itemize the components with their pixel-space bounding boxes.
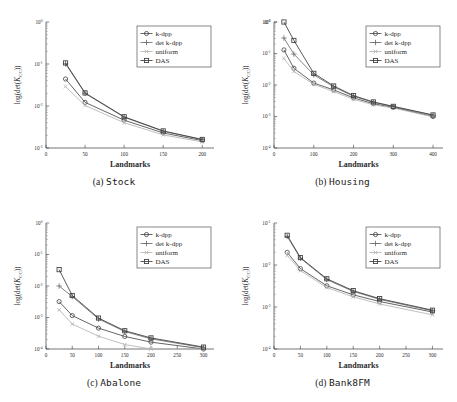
data-point bbox=[64, 85, 68, 89]
y-tick-label-10^-1: 10-1 bbox=[262, 50, 270, 56]
svg-text:log(det(KCC)): log(det(KCC)) bbox=[14, 65, 23, 105]
y-tick-label-10^-2: 10-2 bbox=[262, 82, 270, 88]
x-tick-label-0: 0 bbox=[273, 352, 276, 358]
y-tick-label-10^-2: 10-2 bbox=[34, 103, 42, 109]
legend-label: det k-dpp bbox=[385, 240, 412, 248]
plot-area-d: 05010015020025030010-110-210-310-4Landma… bbox=[228, 201, 457, 402]
x-tick-label-200: 200 bbox=[147, 352, 155, 358]
y-tick-label-10^-4: 10-4 bbox=[262, 346, 270, 352]
y-axis-title: log(det(KCC)) bbox=[242, 266, 251, 306]
caption-prefix: (d) bbox=[315, 378, 329, 388]
x-tick-label-50: 50 bbox=[298, 352, 304, 358]
y-tick-label-10^-3: 10-3 bbox=[262, 113, 270, 119]
x-tick-label-100: 100 bbox=[120, 151, 128, 157]
x-tick-label-100: 100 bbox=[95, 352, 103, 358]
legend-d: k-dppdet k-dppuniformDAS bbox=[366, 227, 440, 268]
legend-label: det k-dpp bbox=[156, 240, 183, 248]
data-point bbox=[70, 322, 74, 326]
x-tick-label-400: 400 bbox=[429, 151, 437, 157]
chart-c: 05010015020025030010010-110-210-310-4Lan… bbox=[0, 201, 228, 402]
caption-prefix: (c) bbox=[87, 378, 100, 388]
legend-label: DAS bbox=[385, 57, 399, 65]
subplot-c: 05010015020025030010010-110-210-310-4Lan… bbox=[0, 201, 228, 402]
y-tick-label-10^-1: 10-1 bbox=[34, 251, 42, 257]
series-markers-k-dpp bbox=[63, 77, 204, 143]
plot-area-a: 05010015020010010-110-210-3Landmarkslog(… bbox=[0, 0, 228, 201]
x-tick-label-250: 250 bbox=[402, 352, 410, 358]
legend-a: k-dppdet k-dppuniformDAS bbox=[137, 26, 211, 67]
series-line-DAS bbox=[66, 63, 203, 139]
caption-dataset-name: Abalone bbox=[100, 377, 141, 388]
y-tick-label-10^-4: 10-4 bbox=[34, 346, 42, 352]
legend-label: uniform bbox=[156, 249, 179, 257]
series-markers-det-k-dpp bbox=[56, 283, 206, 350]
x-tick-label-200: 200 bbox=[376, 352, 384, 358]
chart-b: 010020030040010-110010-110-210-310-4Land… bbox=[228, 0, 457, 201]
y-tick-label-10^-3: 10-3 bbox=[34, 314, 42, 320]
legend-label: k-dpp bbox=[385, 30, 402, 38]
x-tick-label-200: 200 bbox=[350, 151, 358, 157]
x-axis-title: Landmarks bbox=[110, 160, 150, 169]
x-tick-label-150: 150 bbox=[349, 352, 357, 358]
plot-area-c: 05010015020025030010010-110-210-310-4Lan… bbox=[0, 201, 228, 402]
chart-d: 05010015020025030010-110-210-310-4Landma… bbox=[228, 201, 457, 402]
x-tick-label-150: 150 bbox=[121, 352, 129, 358]
x-axis-title: Landmarks bbox=[338, 361, 378, 370]
legend-label: k-dpp bbox=[156, 231, 173, 239]
svg-text:log(det(KCC)): log(det(KCC)) bbox=[242, 266, 251, 306]
subplot-d: 05010015020025030010-110-210-310-4Landma… bbox=[228, 201, 457, 402]
chart-a: 05010015020010010-110-210-3Landmarkslog(… bbox=[0, 0, 228, 201]
series-line-k-dpp bbox=[66, 79, 203, 141]
legend-label: k-dpp bbox=[385, 231, 402, 239]
series-line-det-k-dpp bbox=[66, 64, 203, 140]
series-markers-DAS bbox=[57, 268, 206, 350]
y-tick-label-10^-2: 10-2 bbox=[34, 283, 42, 289]
legend-label: DAS bbox=[156, 258, 170, 266]
x-tick-label-100: 100 bbox=[310, 151, 318, 157]
x-tick-label-300: 300 bbox=[200, 352, 208, 358]
x-axis-title: Landmarks bbox=[338, 160, 378, 169]
y-axis-title: log(det(KCC)) bbox=[14, 65, 23, 105]
series-line-DAS bbox=[59, 270, 203, 347]
legend-label: det k-dpp bbox=[385, 39, 412, 47]
data-point bbox=[281, 35, 286, 40]
x-tick-label-50: 50 bbox=[70, 352, 76, 358]
y-tick-label-10^-3: 10-3 bbox=[34, 145, 42, 151]
subplot-caption-a: (a) Stock bbox=[0, 176, 228, 187]
data-point bbox=[57, 308, 61, 312]
legend-label: det k-dpp bbox=[156, 39, 183, 47]
data-point bbox=[282, 57, 286, 61]
x-tick-label-150: 150 bbox=[159, 151, 167, 157]
caption-dataset-name: Housing bbox=[329, 176, 370, 187]
plot-area-b: 010020030040010-110010-110-210-310-4Land… bbox=[228, 0, 457, 201]
legend-b: k-dppdet k-dppuniformDAS bbox=[366, 26, 440, 67]
y-tick-label-10^0: 100 bbox=[264, 19, 271, 25]
legend-label: DAS bbox=[385, 258, 399, 266]
caption-prefix: (b) bbox=[315, 177, 329, 187]
x-tick-label-200: 200 bbox=[198, 151, 206, 157]
y-tick-label-10^-2: 10-2 bbox=[262, 262, 270, 268]
x-tick-label-250: 250 bbox=[173, 352, 181, 358]
caption-dataset-name: Bank8FM bbox=[329, 377, 370, 388]
legend-label: uniform bbox=[385, 249, 408, 257]
svg-text:log(det(KCC)): log(det(KCC)) bbox=[14, 266, 23, 306]
series-line-k-dpp bbox=[59, 302, 203, 349]
y-axis-title: log(det(KCC)) bbox=[14, 266, 23, 306]
series-line-det-k-dpp bbox=[59, 286, 203, 348]
figure-grid: 05010015020010010-110-210-3Landmarkslog(… bbox=[0, 0, 457, 402]
legend-label: k-dpp bbox=[156, 30, 173, 38]
subplot-a: 05010015020010010-110-210-3Landmarkslog(… bbox=[0, 0, 228, 201]
x-tick-label-50: 50 bbox=[82, 151, 88, 157]
y-tick-label-10^-4: 10-4 bbox=[262, 145, 270, 151]
y-tick-label-10^-1: 10-1 bbox=[262, 220, 270, 226]
y-tick-label-10^0: 100 bbox=[36, 220, 43, 226]
x-tick-label-0: 0 bbox=[273, 151, 276, 157]
y-tick-label-10^0: 100 bbox=[36, 19, 43, 25]
legend-label: uniform bbox=[156, 48, 179, 56]
data-point bbox=[57, 268, 61, 272]
x-tick-label-0: 0 bbox=[45, 151, 48, 157]
y-tick-label-10^-3: 10-3 bbox=[262, 304, 270, 310]
subplot-caption-b: (b) Housing bbox=[228, 176, 457, 187]
x-tick-label-100: 100 bbox=[323, 352, 331, 358]
x-axis-title: Landmarks bbox=[110, 361, 150, 370]
